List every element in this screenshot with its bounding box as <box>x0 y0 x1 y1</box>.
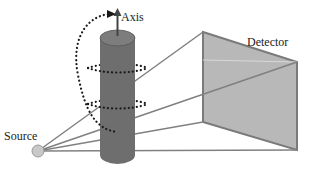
source-label: Source <box>4 129 37 143</box>
axis-label: Axis <box>121 10 144 24</box>
object-cylinder <box>100 30 135 164</box>
orbit-arrowhead-icon <box>107 10 116 18</box>
source-point <box>32 145 44 157</box>
detector-label: Detector <box>247 35 288 49</box>
ct-geometry-diagram: Axis Source Detector <box>0 0 311 176</box>
detector-panel <box>203 32 297 150</box>
